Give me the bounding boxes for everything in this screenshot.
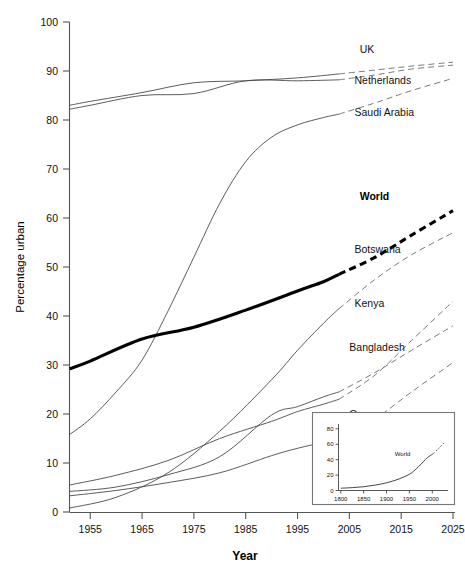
y-tick-label: 0 bbox=[52, 506, 58, 518]
inset-y-tick-label: 40 bbox=[327, 457, 334, 463]
y-axis-title: Percentage urban bbox=[14, 221, 26, 312]
series-label-botswana: Botswana bbox=[355, 243, 401, 255]
y-tick-label: 90 bbox=[46, 65, 58, 77]
inset-x-tick-label: 1950 bbox=[403, 496, 417, 502]
series-label-kenya: Kenya bbox=[355, 297, 385, 309]
inset-x-tick-label: 1900 bbox=[380, 496, 394, 502]
x-tick-label: 1965 bbox=[130, 523, 154, 535]
series-label-uk: UK bbox=[360, 43, 375, 55]
x-tick-label: 1955 bbox=[79, 523, 103, 535]
inset-y-tick-label: 60 bbox=[327, 441, 334, 447]
inset-world-chart: 020406080 18001850190019502000 World bbox=[313, 413, 455, 505]
series-label-saudi-arabia: Saudi Arabia bbox=[355, 106, 415, 118]
series-label-bangladesh: Bangladesh bbox=[349, 341, 405, 353]
y-tick-label: 70 bbox=[46, 163, 58, 175]
inset-y-tick-label: 80 bbox=[327, 426, 334, 432]
series-label-netherlands: Netherlands bbox=[355, 74, 412, 86]
x-tick-label: 2005 bbox=[338, 523, 362, 535]
x-axis-title: Year bbox=[232, 549, 258, 563]
x-tick-label: 1975 bbox=[182, 523, 206, 535]
x-tick-label: 2015 bbox=[389, 523, 413, 535]
inset-series-label: World bbox=[395, 451, 411, 457]
y-tick-label: 100 bbox=[40, 16, 58, 28]
y-tick-label: 50 bbox=[46, 261, 58, 273]
series-label-world: World bbox=[360, 190, 390, 202]
y-tick-label: 20 bbox=[46, 408, 58, 420]
y-tick-label: 30 bbox=[46, 359, 58, 371]
y-tick-label: 10 bbox=[46, 457, 58, 469]
y-tick-label: 60 bbox=[46, 212, 58, 224]
chart-canvas: 0102030405060708090100 Percentage urban … bbox=[0, 0, 465, 577]
inset-y-tick-label: 20 bbox=[327, 472, 334, 478]
x-tick-label: 2025 bbox=[441, 523, 465, 535]
inset-x-tick-label: 2000 bbox=[426, 496, 440, 502]
urbanization-chart: 0102030405060708090100 Percentage urban … bbox=[0, 0, 465, 577]
x-tick-label: 1985 bbox=[234, 523, 258, 535]
inset-x-tick-label: 1800 bbox=[334, 496, 348, 502]
y-tick-label: 80 bbox=[46, 114, 58, 126]
inset-x-tick-label: 1850 bbox=[357, 496, 371, 502]
x-tick-label: 1995 bbox=[286, 523, 310, 535]
y-tick-label: 40 bbox=[46, 310, 58, 322]
